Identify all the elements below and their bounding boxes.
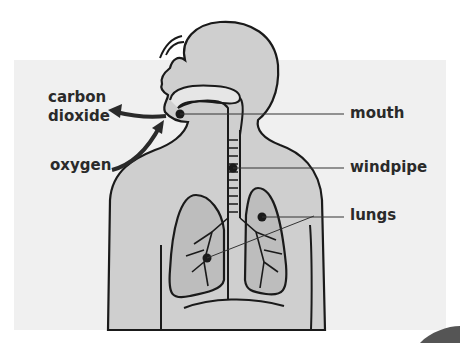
- label-mouth: mouth: [350, 104, 404, 123]
- label-carbon-dioxide-line2: dioxide: [48, 107, 110, 126]
- corner-decoration: [420, 326, 460, 343]
- label-windpipe: windpipe: [350, 158, 427, 177]
- label-carbon-dioxide-line1: carbon: [48, 88, 110, 107]
- label-oxygen: oxygen: [50, 156, 111, 175]
- label-carbon-dioxide: carbon dioxide: [48, 88, 110, 126]
- label-lungs: lungs: [350, 206, 396, 225]
